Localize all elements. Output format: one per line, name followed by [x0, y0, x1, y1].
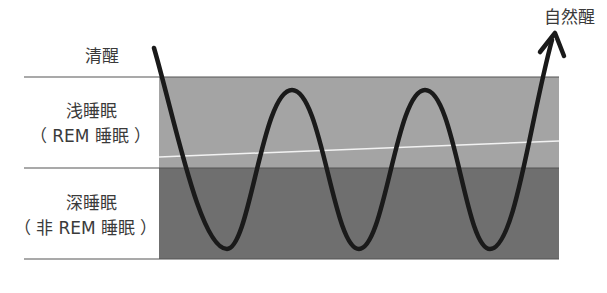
label-light-sleep: 浅睡眠	[24, 99, 159, 123]
label-light-sleep-sub: （ REM 睡眠 ）	[22, 124, 159, 148]
label-deep-sleep-sub: （ 非 REM 睡眠 ）	[8, 216, 163, 240]
label-natural-wake: 自然醒	[534, 5, 604, 29]
label-awake: 清醒	[62, 44, 142, 68]
label-deep-sleep: 深睡眠	[24, 191, 159, 215]
